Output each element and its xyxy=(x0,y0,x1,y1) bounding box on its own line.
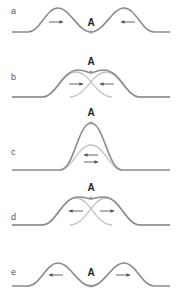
panel-e: e A xyxy=(11,263,170,288)
panel-a: a A xyxy=(11,6,170,34)
point-a-marker xyxy=(89,30,92,33)
point-label-b: A xyxy=(87,56,94,67)
panel-label-a: a xyxy=(11,6,16,16)
point-b-marker xyxy=(89,70,92,73)
point-label-c: A xyxy=(87,107,94,118)
single-pulse-c xyxy=(60,145,122,170)
panel-b: b A xyxy=(11,56,170,97)
point-e-marker xyxy=(89,284,92,287)
point-label-e: A xyxy=(87,267,94,278)
wave-superposition-diagram: a A b A c A d A e xyxy=(0,0,181,300)
panel-d: d A xyxy=(11,182,170,225)
panel-label-c: c xyxy=(11,147,16,157)
panel-label-d: d xyxy=(11,212,16,222)
combined-wave-c xyxy=(12,123,170,170)
point-d-marker xyxy=(89,196,92,199)
point-label-a: A xyxy=(87,17,94,28)
point-label-d: A xyxy=(87,182,94,193)
point-c-marker xyxy=(89,121,92,124)
combined-wave-b xyxy=(12,70,170,97)
panel-c: c A xyxy=(11,107,170,170)
combined-wave-d xyxy=(12,197,170,225)
panel-label-b: b xyxy=(11,72,16,82)
panel-label-e: e xyxy=(11,267,16,277)
